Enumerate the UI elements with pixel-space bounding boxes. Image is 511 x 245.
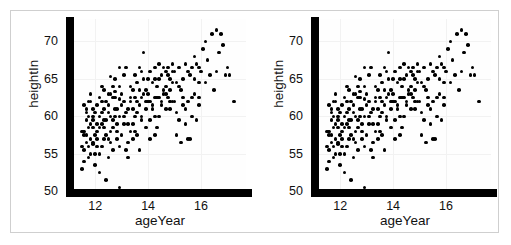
scatter-point [385, 96, 389, 100]
scatter-point [389, 107, 393, 111]
scatter-point [446, 47, 450, 51]
scatter-point [118, 145, 122, 149]
scatter-point [95, 130, 99, 134]
scatter-point [124, 148, 128, 152]
scatter-point [212, 88, 216, 92]
scatter-point [325, 145, 329, 149]
scatter-point [162, 66, 166, 70]
scatter-point [347, 137, 351, 141]
scatter-point [146, 77, 150, 81]
scatter-point [420, 133, 424, 137]
x-axis-label-left: ageYear [74, 214, 246, 228]
scatter-point [393, 70, 397, 74]
scatter-point [221, 43, 225, 47]
scatter-point [340, 103, 344, 107]
scatter-point [122, 73, 126, 77]
scatter-point [188, 73, 192, 77]
scatter-point [396, 107, 400, 111]
scatter-point [87, 126, 91, 130]
scatter-point [442, 103, 446, 107]
scatter-point [85, 111, 89, 115]
x-axis-label-right: ageYear [319, 214, 491, 228]
scatter-point [398, 66, 402, 70]
scatter-point [453, 73, 457, 77]
scatter-point [383, 88, 387, 92]
scatter-point [175, 133, 179, 137]
scatter-point [118, 115, 122, 119]
scatter-point [82, 103, 86, 107]
scatter-point [435, 115, 439, 119]
scatter-point [332, 145, 336, 149]
scatter-point [140, 70, 144, 74]
scatter-point [111, 148, 115, 152]
scatter-point [424, 141, 428, 145]
scatter-point [363, 145, 367, 149]
scatter-point [451, 58, 455, 62]
scatter-point [393, 137, 397, 141]
gridline-vertical [393, 19, 394, 195]
scatter-point [138, 88, 142, 92]
scatter-point [380, 81, 384, 85]
scatter-point [140, 115, 144, 119]
scatter-point [411, 66, 415, 70]
scatter-point [210, 32, 214, 36]
scatter-point [148, 118, 152, 122]
scatter-point [226, 66, 230, 70]
scatter-point [345, 100, 349, 104]
scatter-point [347, 88, 351, 92]
gridline-horizontal [74, 41, 246, 42]
plot-area-right [319, 19, 491, 195]
scatter-point [151, 81, 155, 85]
scatter-point [131, 88, 135, 92]
scatter-point [457, 88, 461, 92]
scatter-point [371, 122, 375, 126]
scatter-point [407, 88, 411, 92]
scatter-point [93, 152, 97, 156]
scatter-point [358, 77, 362, 81]
scatter-point [118, 85, 122, 89]
scatter-point [102, 88, 106, 92]
scatter-point [111, 118, 115, 122]
y-tick-label: 70 [28, 35, 58, 48]
scatter-point [398, 77, 402, 81]
scatter-point [383, 66, 387, 70]
scatter-point [327, 133, 331, 137]
y-tick-label: 55 [273, 148, 303, 161]
scatter-point [82, 160, 86, 164]
scatter-point [325, 167, 329, 171]
scatter-point [164, 85, 168, 89]
scatter-point [356, 148, 360, 152]
scatter-point [360, 122, 364, 126]
scatter-point [80, 167, 84, 171]
scatter-point [102, 137, 106, 141]
scatter-point [107, 111, 111, 115]
scatter-point [131, 137, 135, 141]
scatter-point [352, 137, 356, 141]
scatter-point [162, 88, 166, 92]
scatter-point [449, 81, 453, 85]
scatter-point [155, 96, 159, 100]
scatter-point [385, 118, 389, 122]
gridline-vertical [446, 19, 447, 195]
scatter-point [199, 70, 203, 74]
y-tick-label: 65 [273, 73, 303, 86]
scatter-point [179, 141, 183, 145]
scatter-point [104, 118, 108, 122]
y-tick-label: 60 [28, 110, 58, 123]
figure-frame: heightIn ageYear 5055606570121416 height… [10, 10, 499, 233]
x-tick-label: 12 [80, 200, 110, 213]
scatter-point [138, 103, 142, 107]
scatter-point [358, 90, 362, 94]
scatter-point [338, 163, 342, 167]
scatter-point [193, 55, 197, 59]
scatter-point [157, 115, 161, 119]
scatter-point [100, 100, 104, 104]
scatter-point [473, 73, 477, 77]
scatter-point [424, 88, 428, 92]
scatter-point [140, 118, 144, 122]
scatter-point [363, 66, 367, 70]
scatter-point [369, 148, 373, 152]
scatter-point [208, 73, 212, 77]
scatter-point [380, 111, 384, 115]
scatter-point [352, 111, 356, 115]
